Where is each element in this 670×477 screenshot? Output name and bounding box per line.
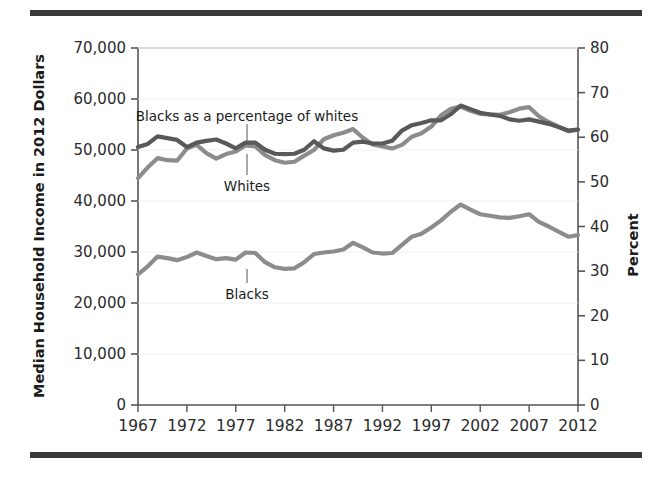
x-axis-tick-marks — [138, 405, 578, 412]
x-axis-tick-labels: 1967197219771982198719921997200220072012 — [118, 417, 597, 435]
plot-frame — [138, 48, 578, 405]
series-lines — [138, 106, 578, 275]
y-axis-tick-label: 0 — [116, 396, 126, 414]
series-line — [138, 205, 578, 275]
x-axis-tick-label: 1987 — [314, 417, 353, 435]
x-axis-tick-label: 2007 — [509, 417, 548, 435]
y-axis-tick-labels: 010,00020,00030,00040,00050,00060,00070,… — [74, 39, 127, 414]
x-axis-tick-label: 1977 — [216, 417, 255, 435]
y-axis-tick-marks — [131, 48, 138, 405]
y-axis-tick-label: 20,000 — [74, 294, 127, 312]
y2-axis-tick-label: 60 — [590, 128, 609, 146]
x-axis-tick-label: 1997 — [412, 417, 451, 435]
y2-axis-tick-labels: 01020304050607080 — [590, 39, 609, 414]
y-axis-tick-label: 70,000 — [74, 39, 127, 57]
y-axis-tick-label: 10,000 — [74, 345, 127, 363]
x-axis-tick-label: 2002 — [460, 417, 499, 435]
y-axis-tick-label: 30,000 — [74, 243, 127, 261]
grid-lines — [138, 48, 578, 354]
y-axis-title: Median Household Income in 2012 Dollars — [31, 54, 47, 398]
figure-container: 010,00020,00030,00040,00050,00060,00070,… — [0, 0, 670, 477]
x-axis-tick-label: 1967 — [118, 417, 157, 435]
y2-axis-tick-label: 40 — [590, 218, 609, 236]
y-axis-tick-label: 50,000 — [74, 141, 127, 159]
y2-axis-tick-marks — [578, 48, 585, 405]
line-chart: 010,00020,00030,00040,00050,00060,00070,… — [0, 0, 670, 477]
x-axis-tick-label: 1992 — [363, 417, 402, 435]
y2-axis-title: Percent — [625, 213, 641, 276]
y2-axis-tick-label: 30 — [590, 262, 609, 280]
y2-axis-tick-label: 80 — [590, 39, 609, 57]
x-axis-tick-label: 1972 — [167, 417, 206, 435]
series-label-whites: Whites — [224, 178, 270, 194]
y2-axis-tick-label: 20 — [590, 307, 609, 325]
y2-axis-tick-label: 70 — [590, 84, 609, 102]
y2-axis-tick-label: 10 — [590, 351, 609, 369]
x-axis-tick-label: 1982 — [265, 417, 304, 435]
series-label-black-pct-of-white: Blacks as a percentage of whites — [136, 108, 358, 124]
series-label-blacks: Blacks — [225, 286, 269, 302]
y-axis-tick-label: 60,000 — [74, 90, 127, 108]
y2-axis-tick-label: 50 — [590, 173, 609, 191]
y-axis-tick-label: 40,000 — [74, 192, 127, 210]
x-axis-tick-label: 2012 — [558, 417, 597, 435]
y2-axis-tick-label: 0 — [590, 396, 600, 414]
